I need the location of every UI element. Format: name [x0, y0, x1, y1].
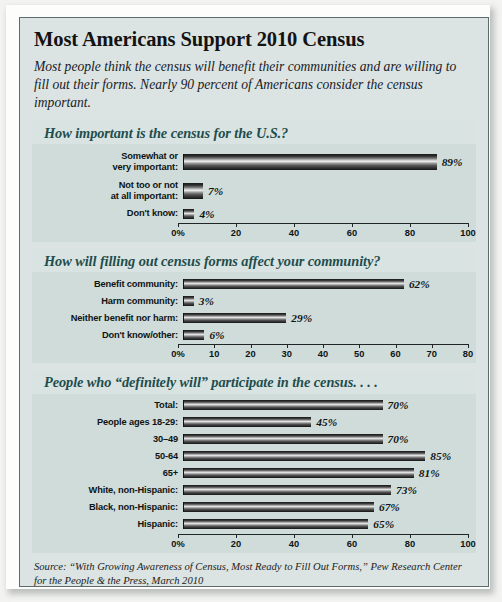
axis-tick — [236, 534, 237, 538]
axis-tick — [287, 344, 288, 348]
chart-bar-row: Benefit community:62% — [40, 276, 468, 291]
x-axis: 0%20406080100 — [40, 534, 468, 551]
chart-bar-row: Don't know:4% — [40, 206, 468, 221]
chart-bar-row: Hispanic:65% — [40, 517, 468, 532]
scan-background: Most Americans Support 2010 Census Most … — [0, 0, 502, 602]
axis-scale: 0%20406080100 — [178, 223, 468, 240]
bar-category-label: People ages 18-29: — [40, 417, 183, 428]
axis-tick — [468, 534, 469, 538]
bar-category-label: Black, non-Hispanic: — [40, 502, 183, 513]
bar-category-label: 50-64 — [40, 451, 183, 462]
bar — [183, 183, 203, 199]
chart-bar-row: 50-6485% — [40, 449, 468, 464]
axis-tick-label: 70 — [427, 349, 437, 359]
axis-spacer — [40, 344, 178, 361]
bar-category-label: Harm community: — [40, 296, 183, 307]
axis-tick — [214, 344, 215, 348]
chart-bar-row: 30–4970% — [40, 432, 468, 447]
axis-tick — [178, 534, 179, 538]
axis-tick-label: 100 — [460, 228, 476, 238]
axis-tick-label: 20 — [231, 539, 241, 549]
chart-bar-row: White, non-Hispanic:73% — [40, 483, 468, 498]
panel-body: Total:70%People ages 18-29:45%30–4970%50… — [32, 394, 476, 553]
bar-value-label: 70% — [388, 433, 409, 445]
bar-value-label: 70% — [388, 399, 409, 411]
chart-panel-2: How will filling out census forms affect… — [32, 249, 476, 363]
bar — [183, 279, 404, 289]
axis-tick-label: 0% — [171, 228, 184, 238]
axis-tick-label: 60 — [347, 539, 357, 549]
bar — [183, 296, 194, 306]
axis-tick — [468, 344, 469, 348]
chart-bar-row: Total:70% — [40, 398, 468, 413]
bar — [183, 154, 437, 170]
bar-value-label: 81% — [419, 467, 440, 479]
bar-category-label: Somewhat or very important: — [40, 151, 183, 172]
bar — [183, 434, 383, 444]
bar-track: 6% — [183, 327, 468, 342]
bar — [183, 502, 374, 512]
axis-tick — [352, 534, 353, 538]
bar-track: 29% — [183, 310, 468, 325]
panel-body: Benefit community:62%Harm community:3%Ne… — [32, 272, 476, 363]
page-deck: Most people think the census will benefi… — [34, 58, 470, 113]
chart-bar-row: 65+81% — [40, 466, 468, 481]
bar-track: 67% — [183, 500, 468, 515]
axis-tick — [236, 223, 237, 227]
axis-tick-label: 60 — [390, 349, 400, 359]
bar — [183, 417, 311, 427]
axis-scale: 0%20406080100 — [178, 534, 468, 551]
bar-track: 89% — [183, 148, 468, 175]
bar-value-label: 45% — [316, 416, 337, 428]
chart-bar-row: Neither benefit nor harm:29% — [40, 310, 468, 325]
bar — [183, 313, 286, 323]
bar-value-label: 7% — [208, 185, 223, 197]
axis-tick — [359, 344, 360, 348]
bar-value-label: 62% — [409, 278, 430, 290]
bar — [183, 330, 204, 340]
bar — [183, 451, 425, 461]
axis-tick-label: 100 — [460, 539, 476, 549]
axis-tick — [352, 223, 353, 227]
axis-tick — [294, 223, 295, 227]
panel-title: How important is the census for the U.S.… — [32, 121, 476, 144]
chart-panel-3: People who “definitely will” participate… — [32, 370, 476, 552]
bar-track: 70% — [183, 432, 468, 447]
bar-category-label: 65+ — [40, 468, 183, 479]
source-note: Source: “With Growing Awareness of Censu… — [34, 560, 472, 589]
chart-bar-row: Not too or not at all important:7% — [40, 177, 468, 204]
axis-tick-label: 50 — [354, 349, 364, 359]
bar-track: 4% — [183, 206, 468, 221]
axis-tick — [410, 534, 411, 538]
bar-value-label: 65% — [373, 518, 394, 530]
bar-track: 85% — [183, 449, 468, 464]
bar-value-label: 6% — [209, 329, 224, 341]
bar-category-label: Benefit community: — [40, 279, 183, 290]
bar-track: 62% — [183, 276, 468, 291]
bar-value-label: 4% — [199, 208, 214, 220]
axis-tick-label: 40 — [289, 539, 299, 549]
axis-tick-label: 60 — [347, 228, 357, 238]
axis-tick — [178, 344, 179, 348]
bar-value-label: 85% — [430, 450, 451, 462]
bar-value-label: 29% — [291, 312, 312, 324]
chart-panels: How important is the census for the U.S.… — [32, 121, 476, 552]
axis-tick-label: 0% — [171, 539, 184, 549]
infographic-frame: Most Americans Support 2010 Census Most … — [19, 17, 489, 587]
axis-tick — [251, 344, 252, 348]
bar-track: 3% — [183, 293, 468, 308]
chart-panel-1: How important is the census for the U.S.… — [32, 121, 476, 242]
bar-category-label: White, non-Hispanic: — [40, 485, 183, 496]
bar-track: 65% — [183, 517, 468, 532]
axis-spacer — [40, 223, 178, 240]
axis-tick-label: 0% — [171, 349, 184, 359]
bar-category-label: Don't know/other: — [40, 330, 183, 341]
axis-tick — [468, 223, 469, 227]
axis-tick — [323, 344, 324, 348]
chart-bar-row: Black, non-Hispanic:67% — [40, 500, 468, 515]
axis-line — [178, 534, 468, 535]
bar — [183, 485, 391, 495]
axis-tick — [396, 344, 397, 348]
axis-tick-label: 10 — [209, 349, 219, 359]
axis-tick-label: 20 — [231, 228, 241, 238]
